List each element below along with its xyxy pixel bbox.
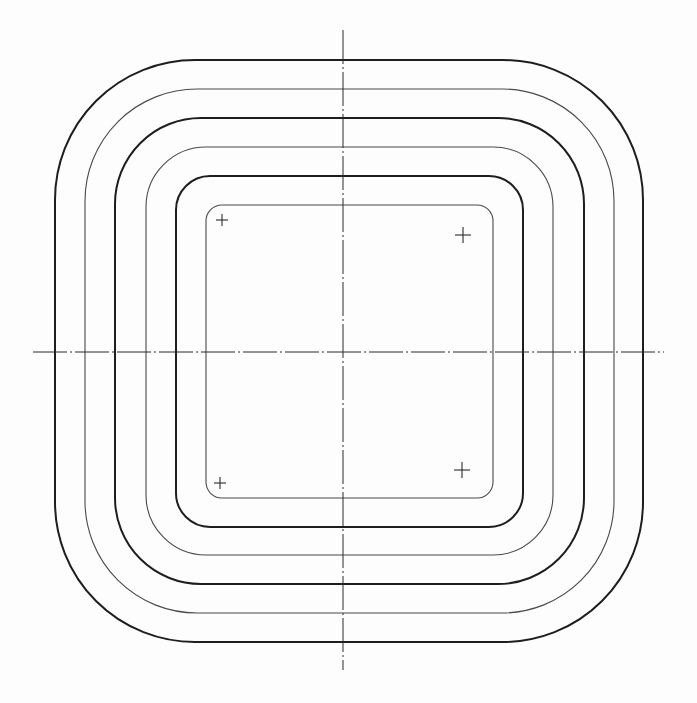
cross-top-right-icon	[455, 227, 471, 243]
contour-4	[146, 147, 553, 555]
technical-drawing	[0, 0, 697, 703]
cross-bottom-right-icon	[454, 462, 470, 478]
centerline-group	[33, 30, 664, 670]
contour-group	[55, 60, 643, 642]
contour-2	[85, 89, 614, 613]
cross-bottom-left-icon	[214, 477, 226, 489]
drawing-canvas	[0, 0, 697, 703]
cross-top-left-icon	[216, 214, 228, 226]
